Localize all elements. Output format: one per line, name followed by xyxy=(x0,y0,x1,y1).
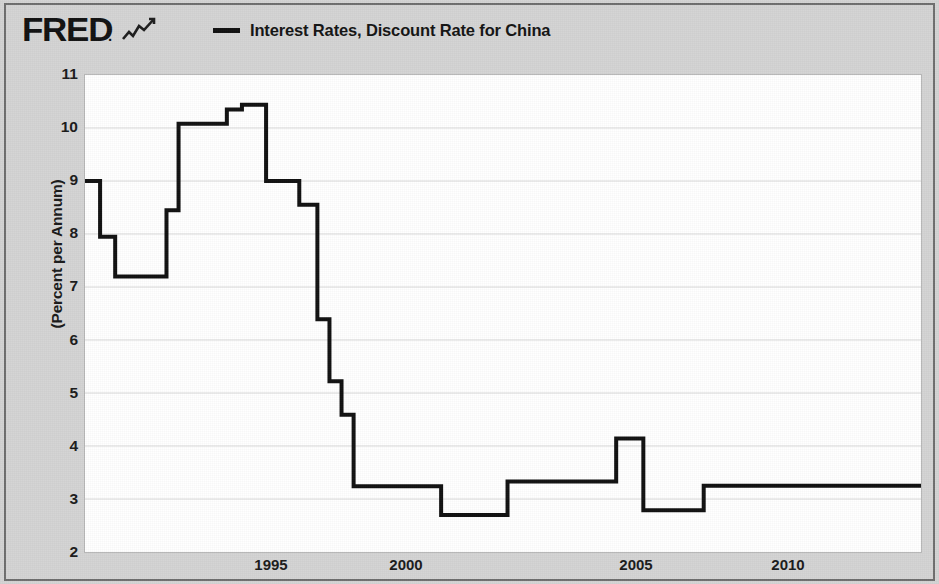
x-tick-label: 2005 xyxy=(619,556,652,573)
y-tick-label: 9 xyxy=(38,171,78,189)
chart-area: (Percent per Annum) 11 10 9 8 7 6 5 4 3 … xyxy=(6,57,933,579)
x-tick-label: 2010 xyxy=(771,556,804,573)
plot-area xyxy=(84,74,922,553)
y-tick-label: 10 xyxy=(38,118,78,136)
fred-logo: FRED . xyxy=(22,13,157,46)
y-tick-label: 3 xyxy=(38,490,78,508)
x-tick-label: 1995 xyxy=(254,556,287,573)
legend-color-swatch xyxy=(213,28,240,33)
y-tick-label: 2 xyxy=(38,543,78,561)
y-tick-label: 5 xyxy=(38,384,78,402)
fred-chart-screenshot: FRED . Interest Rates, Discount Rate for… xyxy=(0,0,939,584)
x-tick-label: 2000 xyxy=(389,556,422,573)
chart-header: FRED . Interest Rates, Discount Rate for… xyxy=(6,5,933,57)
gridlines xyxy=(85,128,921,499)
y-tick-label: 7 xyxy=(38,277,78,295)
line-chart-icon xyxy=(121,17,157,43)
y-axis-tick-labels: 11 10 9 8 7 6 5 4 3 2 xyxy=(30,57,78,579)
y-tick-label: 4 xyxy=(38,437,78,455)
y-tick-label: 6 xyxy=(38,331,78,349)
fred-wordmark: FRED xyxy=(22,13,112,46)
legend-series-label: Interest Rates, Discount Rate for China xyxy=(250,21,550,40)
series-plot xyxy=(85,75,921,552)
data-series-line xyxy=(85,105,921,515)
chart-legend: Interest Rates, Discount Rate for China xyxy=(213,21,550,40)
y-tick-label: 11 xyxy=(38,65,78,83)
y-tick-label: 8 xyxy=(38,224,78,242)
